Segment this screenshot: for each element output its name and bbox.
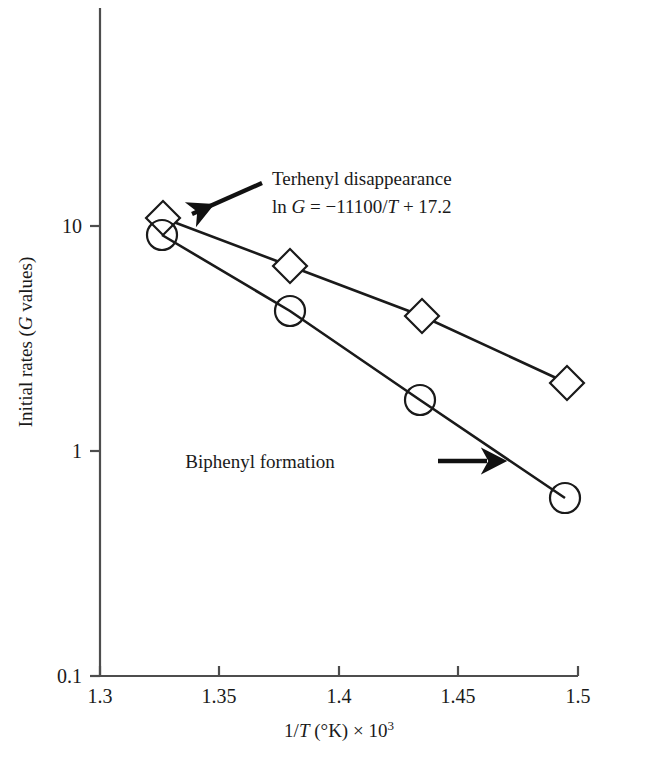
log-plot-figure: 10 1 0.1 1.3 1.35 1.4 1.45 1.5 1/T (°K) … <box>0 0 649 757</box>
x-tick-label-1.35: 1.35 <box>202 685 237 707</box>
y-axis-ticks <box>90 226 100 676</box>
y-axis-title-italic-G: G <box>15 316 36 330</box>
x-tick-label-1.45: 1.45 <box>441 685 476 707</box>
series-markers-terphenyl <box>146 201 584 400</box>
terphenyl-annotation-line2: ln G = −11100/T + 17.2 <box>272 196 452 217</box>
x-axis-title-superscript: 3 <box>387 718 394 733</box>
terphenyl-eq-G: G <box>292 196 306 217</box>
biphenyl-annotation: Biphenyl formation <box>185 451 487 472</box>
terphenyl-eq-ln: ln <box>272 196 292 217</box>
y-tick-label-0.1: 0.1 <box>57 665 82 687</box>
x-tick-label-1.3: 1.3 <box>88 685 113 707</box>
axis-lines <box>100 8 578 676</box>
data-point-circle-3[interactable] <box>405 385 435 415</box>
chart-canvas: 10 1 0.1 1.3 1.35 1.4 1.45 1.5 1/T (°K) … <box>0 0 649 757</box>
terphenyl-arrow-icon <box>192 183 262 214</box>
series-line-terphenyl <box>163 218 567 383</box>
x-tick-label-1.5: 1.5 <box>566 685 591 707</box>
x-axis-ticks <box>100 666 578 676</box>
y-tick-label-1: 1 <box>72 440 82 462</box>
terphenyl-annotation-line1: Terhenyl disappearance <box>272 168 452 189</box>
x-axis-title-pre: 1/ <box>284 720 300 741</box>
y-tick-label-10: 10 <box>62 215 82 237</box>
biphenyl-annotation-text: Biphenyl formation <box>185 451 335 472</box>
x-axis-title: 1/T (°K) × 103 <box>284 718 394 742</box>
data-point-circle-4[interactable] <box>550 483 580 513</box>
y-axis-title: Initial rates (G values) <box>15 257 37 427</box>
x-tick-label-1.4: 1.4 <box>327 685 352 707</box>
data-point-diamond-3[interactable] <box>405 299 439 333</box>
y-axis-title-post: values) <box>15 257 37 317</box>
series-terphenyl-disappearance <box>146 201 584 400</box>
terphenyl-annotation: Terhenyl disappearance ln G = −11100/T +… <box>192 168 452 217</box>
data-point-diamond-4[interactable] <box>550 366 584 400</box>
data-point-circle-2[interactable] <box>275 296 305 326</box>
data-point-diamond-2[interactable] <box>273 249 307 283</box>
data-point-circle-1[interactable] <box>147 220 177 250</box>
y-axis-title-pre: Initial rates ( <box>15 330 37 427</box>
terphenyl-eq-middle: = −11100/ <box>305 196 388 217</box>
x-axis-title-mid: (°K) × 10 <box>309 720 387 742</box>
terphenyl-eq-tail: + 17.2 <box>398 196 451 217</box>
